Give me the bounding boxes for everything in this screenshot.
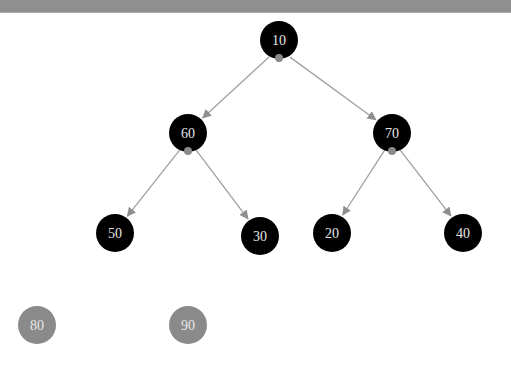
tree-diagram: 106070503020408090 bbox=[0, 0, 511, 369]
edge-10-to-70 bbox=[290, 57, 376, 120]
node-label: 40 bbox=[456, 226, 470, 241]
node-label: 10 bbox=[272, 33, 286, 48]
edge-60-to-30 bbox=[196, 150, 248, 219]
tree-node-70[interactable]: 70 bbox=[373, 114, 411, 152]
node-layer: 106070503020408090 bbox=[18, 21, 482, 344]
node-label: 30 bbox=[253, 229, 267, 244]
tree-node-60[interactable]: 60 bbox=[169, 114, 207, 152]
tree-node-40[interactable]: 40 bbox=[444, 214, 482, 252]
node-label: 50 bbox=[108, 226, 122, 241]
connector-dot bbox=[184, 147, 192, 155]
edge-70-to-40 bbox=[400, 150, 451, 216]
pending-node-80[interactable]: 80 bbox=[18, 306, 56, 344]
tree-node-50[interactable]: 50 bbox=[96, 214, 134, 252]
node-label: 20 bbox=[325, 226, 339, 241]
node-label: 60 bbox=[181, 126, 195, 141]
pending-node-90[interactable]: 90 bbox=[169, 306, 207, 344]
tree-node-10[interactable]: 10 bbox=[260, 21, 298, 59]
edge-10-to-60 bbox=[203, 57, 269, 118]
tree-node-20[interactable]: 20 bbox=[313, 214, 351, 252]
edge-70-to-20 bbox=[343, 150, 385, 215]
connector-dot bbox=[275, 54, 283, 62]
tree-node-30[interactable]: 30 bbox=[241, 217, 279, 255]
node-label: 70 bbox=[385, 126, 399, 141]
node-label: 80 bbox=[30, 318, 44, 333]
node-label: 90 bbox=[181, 318, 195, 333]
connector-dot bbox=[388, 147, 396, 155]
edge-60-to-50 bbox=[127, 150, 179, 216]
